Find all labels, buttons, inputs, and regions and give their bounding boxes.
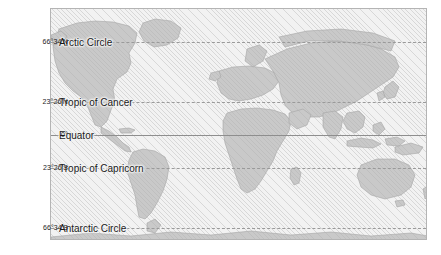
latitude-label-tropic-of-capricorn: Tropic of Capricorn bbox=[59, 163, 144, 174]
latitude-tick-tropic-of-capricorn: 23°26'S bbox=[43, 164, 68, 171]
latitude-tick-tropic-of-cancer: 23°26'N bbox=[43, 98, 68, 105]
world-map-figure: Arctic CircleTropic of CancerEquatorTrop… bbox=[0, 0, 441, 255]
latitude-tick-arctic-circle: 66°34'N bbox=[43, 38, 68, 45]
map-frame: Arctic CircleTropic of CancerEquatorTrop… bbox=[50, 8, 427, 240]
latitude-label-antarctic-circle: Antarctic Circle bbox=[59, 223, 126, 234]
latitude-label-tropic-of-cancer: Tropic of Cancer bbox=[59, 97, 133, 108]
latitude-tick-antarctic-circle: 66°34'S bbox=[43, 224, 68, 231]
latitude-tick-equator: 0° bbox=[61, 131, 68, 138]
latitude-line-equator bbox=[51, 135, 426, 136]
